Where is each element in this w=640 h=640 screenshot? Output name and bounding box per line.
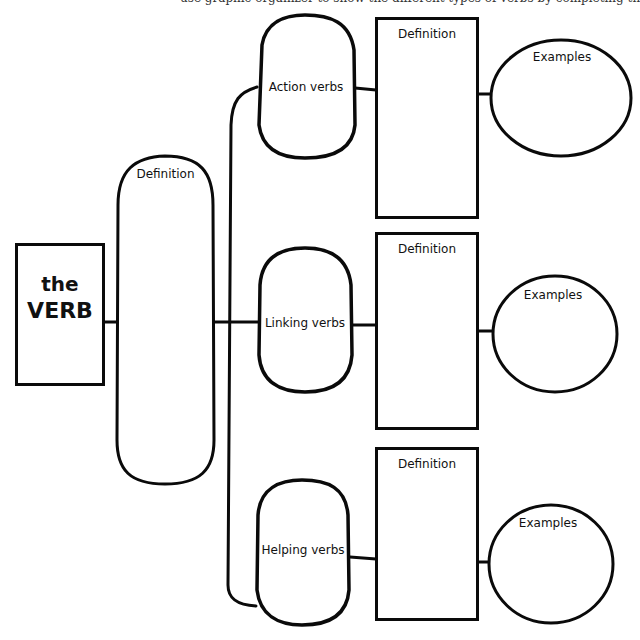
action-verbs-label: Action verbs [258, 80, 354, 94]
root-verb-box: the VERB [15, 243, 105, 386]
action-definition-label: Definition [378, 27, 476, 41]
root-title-the: the [18, 272, 102, 296]
action-examples-label: Examples [532, 50, 592, 64]
action-definition-box: Definition [375, 17, 479, 219]
root-definition-shape [117, 156, 214, 484]
helping-examples-label: Examples [518, 516, 578, 530]
helping-definition-box: Definition [375, 447, 479, 621]
root-title-verb: VERB [18, 298, 102, 323]
linking-verbs-label: Linking verbs [258, 316, 352, 330]
linking-definition-label: Definition [378, 242, 476, 256]
root-definition-label: Definition [118, 167, 213, 181]
linking-examples-label: Examples [523, 288, 583, 302]
helping-verbs-label: Helping verbs [256, 543, 350, 557]
helping-definition-label: Definition [378, 457, 476, 471]
linking-definition-box: Definition [375, 232, 479, 430]
